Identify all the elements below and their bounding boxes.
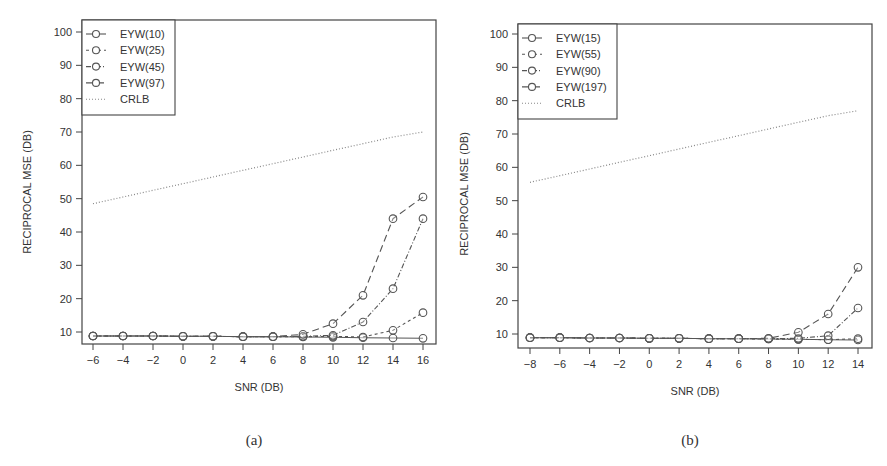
y-tick-label: 70 [60,126,72,138]
y-tick-label: 10 [496,328,508,340]
x-tick-label: 8 [300,354,306,366]
x-tick-label: 0 [180,354,186,366]
data-point-marker [586,334,594,342]
x-tick-label: 8 [765,358,771,370]
legend-marker-icon [93,47,100,54]
y-axis: 102030405060708090100 [54,26,82,338]
data-point-marker [389,334,397,342]
x-tick-label: −6 [87,354,100,366]
x-tick-label: 12 [822,358,834,370]
series-crlb [530,111,858,183]
legend-label: CRLB [120,93,149,105]
x-tick-label: −8 [524,358,537,370]
data-point-marker [854,304,862,312]
y-tick-label: 30 [496,261,508,273]
y-tick-label: 40 [60,226,72,238]
y-tick-label: 60 [496,161,508,173]
data-point-marker [824,310,832,318]
series-line [93,132,423,204]
legend-label: EYW(10) [120,28,165,40]
y-tick-label: 60 [60,159,72,171]
data-point-marker [419,309,427,317]
legend-label: EYW(15) [556,32,601,44]
data-point-marker [299,331,307,339]
x-axis: −6−4−20246810121416 [87,344,429,366]
data-point-marker [419,215,427,223]
y-tick-label: 20 [60,293,72,305]
legend-marker-icon [529,35,536,42]
plot-area [89,132,427,342]
x-tick-label: 0 [646,358,652,370]
legend-marker-icon [93,63,100,70]
legend-label: CRLB [556,97,585,109]
legend-label: EYW(25) [120,44,165,56]
data-point-marker [119,332,127,340]
y-tick-label: 20 [496,295,508,307]
data-point-marker [389,327,397,335]
x-tick-label: 14 [387,354,399,366]
y-tick-label: 80 [496,95,508,107]
data-point-marker [824,332,832,340]
data-point-marker [526,334,534,342]
x-tick-label: 6 [736,358,742,370]
data-point-marker [419,193,427,201]
series-line [530,308,858,339]
x-tick-label: −2 [147,354,160,366]
x-tick-label: 4 [706,358,712,370]
figure: 102030405060708090100−6−4−20246810121416… [0,0,887,466]
plot-area [526,111,862,344]
legend-label: EYW(90) [556,65,601,77]
x-tick-label: −2 [613,358,626,370]
data-point-marker [149,332,157,340]
figure-caption: (b) [681,432,699,449]
y-axis-title: RECIPROCAL MSE (DB) [458,132,470,256]
chart-a: 102030405060708090100−6−4−20246810121416… [21,20,436,449]
data-point-marker [359,333,367,341]
data-point-marker [645,335,653,343]
data-point-marker [179,333,187,341]
x-tick-label: 10 [792,358,804,370]
series-line [530,111,858,183]
legend-label: EYW(55) [556,48,601,60]
data-point-marker [389,285,397,293]
data-point-marker [389,215,397,223]
y-tick-label: 100 [490,28,508,40]
x-axis-title: SNR (DB) [671,385,720,397]
series-eyw97 [89,193,427,340]
legend-marker-icon [93,79,100,86]
data-point-marker [675,335,683,343]
x-tick-label: 2 [210,354,216,366]
x-tick-label: 2 [676,358,682,370]
x-tick-label: 4 [240,354,246,366]
y-tick-label: 50 [60,193,72,205]
data-point-marker [269,333,277,341]
legend-label: EYW(97) [120,77,165,89]
series-line [530,267,858,338]
series-crlb [93,132,423,204]
legend-marker-icon [529,83,536,90]
data-point-marker [795,329,803,337]
series-eyw90 [526,304,862,342]
series-line [93,197,423,337]
x-tick-label: 16 [417,354,429,366]
legend: EYW(10)EYW(25)EYW(45)EYW(97)CRLB [82,20,175,115]
data-point-marker [854,264,862,272]
y-tick-label: 90 [60,59,72,71]
x-tick-label: 12 [357,354,369,366]
x-tick-label: 6 [270,354,276,366]
y-axis: 102030405060708090100 [490,28,518,340]
x-tick-label: −4 [117,354,130,366]
data-point-marker [359,318,367,326]
data-point-marker [329,320,337,328]
data-point-marker [359,292,367,300]
data-point-marker [239,333,247,341]
legend-label: EYW(45) [120,61,165,73]
data-point-marker [329,332,337,340]
data-point-marker [765,335,773,343]
x-tick-label: 10 [327,354,339,366]
figure-caption: (a) [246,432,263,449]
x-tick-label: −4 [583,358,596,370]
series-line [93,219,423,337]
legend-label: EYW(197) [556,81,607,93]
data-point-marker [89,332,97,340]
